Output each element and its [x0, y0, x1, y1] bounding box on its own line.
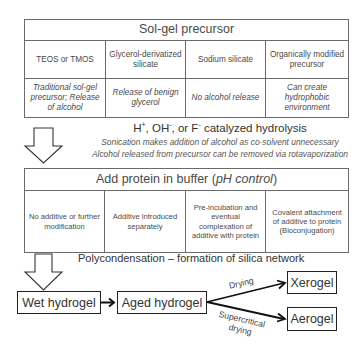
down-arrow-icon [25, 128, 62, 163]
polycondensation-label: Polycondensation – formation of silica n… [78, 252, 304, 264]
xerogel-box: Xerogel [287, 271, 337, 294]
protein-option-bioconjugation: Covalent attachment of additive to prote… [266, 191, 349, 253]
hydrolysis-title: H+, OH-, or F- catalyzed hydrolysis [70, 121, 363, 134]
wet-hydrogel-box: Wet hydrogel [17, 291, 101, 314]
down-arrow-icon [25, 254, 62, 290]
protein-option-preincubation: Pre-incubation and eventual complexation… [186, 191, 266, 253]
protein-table: Add protein in buffer (pH control) No ad… [24, 168, 349, 253]
protein-table-title: Add protein in buffer (pH control) [25, 169, 349, 191]
right-arrow-icon [101, 299, 114, 307]
protein-option-no-additive: No additive or further modification [25, 191, 105, 253]
aged-hydrogel-box: Aged hydrogel [117, 291, 207, 314]
hydrolysis-note-sonication: Sonication makes addition of alcohol as … [70, 137, 363, 147]
aerogel-box: Aerogel [287, 307, 337, 331]
hydrolysis-note-rotavap: Alcohol released from precursor can be r… [70, 149, 363, 159]
protein-option-separate: Additive introduced separately [105, 191, 186, 253]
